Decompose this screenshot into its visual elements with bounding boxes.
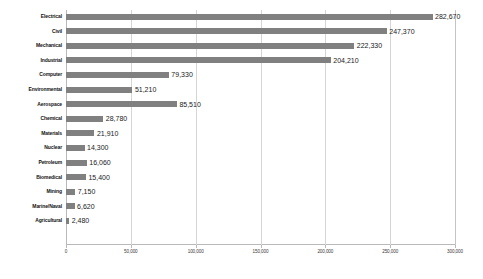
bar-chart: Electrical282,670Civil247,370Mechanical2… bbox=[0, 0, 483, 279]
bar-row: Civil247,370 bbox=[0, 27, 483, 36]
bar-row: Computer79,330 bbox=[0, 70, 483, 79]
bar-row: Agricultural2,480 bbox=[0, 216, 483, 225]
bar bbox=[66, 160, 87, 166]
x-tickmark bbox=[261, 245, 262, 248]
category-label-petroleum: Petroleum bbox=[0, 158, 62, 167]
bar-value-label: 28,780 bbox=[106, 114, 127, 123]
category-label-environmental: Environmental bbox=[0, 85, 62, 94]
bar-row: Mechanical222,330 bbox=[0, 41, 483, 50]
bar bbox=[66, 43, 354, 49]
bar-row: Nuclear14,300 bbox=[0, 143, 483, 152]
bar-row: Environmental51,210 bbox=[0, 85, 483, 94]
bar bbox=[66, 72, 169, 78]
bar-row: Biomedical15,400 bbox=[0, 173, 483, 182]
x-tickmark bbox=[390, 245, 391, 248]
bar-rows: Electrical282,670Civil247,370Mechanical2… bbox=[0, 0, 483, 235]
bar-value-label: 79,330 bbox=[171, 70, 192, 79]
x-tick-label: 300,000 bbox=[447, 249, 463, 254]
bar-row: Petroleum16,060 bbox=[0, 158, 483, 167]
bar-value-label: 247,370 bbox=[389, 27, 414, 36]
x-tickmark bbox=[131, 245, 132, 248]
x-tick-label: 200,000 bbox=[317, 249, 333, 254]
x-tickmark bbox=[325, 245, 326, 248]
x-tick-label: 0 bbox=[65, 249, 67, 254]
category-label-civil: Civil bbox=[0, 27, 62, 36]
bar-value-label: 282,670 bbox=[435, 12, 460, 21]
bar-row: Electrical282,670 bbox=[0, 12, 483, 21]
x-tick-label: 50,000 bbox=[124, 249, 137, 254]
bar-value-label: 222,330 bbox=[357, 41, 382, 50]
bar-row: Aerospace85,510 bbox=[0, 100, 483, 109]
bar bbox=[66, 116, 103, 122]
bar bbox=[66, 145, 85, 151]
bar bbox=[66, 28, 387, 34]
bar-value-label: 7,150 bbox=[78, 187, 96, 196]
category-label-aerospace: Aerospace bbox=[0, 100, 62, 109]
category-label-mining: Mining bbox=[0, 187, 62, 196]
category-label-agricultural: Agricultural bbox=[0, 216, 62, 225]
bar-row: Industrial204,210 bbox=[0, 56, 483, 65]
bar-value-label: 14,300 bbox=[87, 143, 108, 152]
bar-value-label: 16,060 bbox=[89, 158, 110, 167]
category-label-computer: Computer bbox=[0, 70, 62, 79]
bar bbox=[66, 101, 177, 107]
bar bbox=[66, 87, 132, 93]
bar-value-label: 51,210 bbox=[135, 85, 156, 94]
bar bbox=[66, 14, 433, 20]
category-label-materials: Materials bbox=[0, 129, 62, 138]
x-tick-label: 250,000 bbox=[382, 249, 398, 254]
bar bbox=[66, 174, 86, 180]
bar-value-label: 85,510 bbox=[179, 100, 200, 109]
bar-row: Chemical28,780 bbox=[0, 114, 483, 123]
bar-value-label: 15,400 bbox=[88, 173, 109, 182]
bar-value-label: 2,480 bbox=[72, 216, 90, 225]
x-tickmark bbox=[196, 245, 197, 248]
bar-value-label: 6,620 bbox=[77, 202, 95, 211]
bar bbox=[66, 57, 331, 63]
x-tickmark bbox=[455, 245, 456, 248]
bar bbox=[66, 218, 69, 224]
x-tick-label: 100,000 bbox=[188, 249, 204, 254]
category-label-mechanical: Mechanical bbox=[0, 41, 62, 50]
bar bbox=[66, 203, 75, 209]
x-tickmark bbox=[66, 245, 67, 248]
category-label-industrial: Industrial bbox=[0, 56, 62, 65]
category-label-electrical: Electrical bbox=[0, 12, 62, 21]
bar-value-label: 204,210 bbox=[333, 56, 358, 65]
category-label-chemical: Chemical bbox=[0, 114, 62, 123]
category-label-biomedical: Biomedical bbox=[0, 173, 62, 182]
bar bbox=[66, 189, 75, 195]
bar-value-label: 21,910 bbox=[97, 129, 118, 138]
x-tick-label: 150,000 bbox=[253, 249, 269, 254]
category-label-marine-naval: Marine/Naval bbox=[0, 202, 62, 211]
bar-row: Materials21,910 bbox=[0, 129, 483, 138]
category-label-nuclear: Nuclear bbox=[0, 143, 62, 152]
bar-row: Marine/Naval6,620 bbox=[0, 202, 483, 211]
bar-row: Mining7,150 bbox=[0, 187, 483, 196]
bar bbox=[66, 130, 94, 136]
